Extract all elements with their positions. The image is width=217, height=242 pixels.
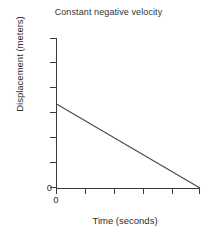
y-axis-ticks: [50, 39, 56, 188]
chart-figure: Constant negative velocity Displacement …: [0, 0, 217, 242]
data-series-displacement: [57, 104, 201, 188]
displacement-line: [57, 104, 201, 188]
axes: [56, 38, 200, 189]
plot-area: [0, 0, 217, 242]
